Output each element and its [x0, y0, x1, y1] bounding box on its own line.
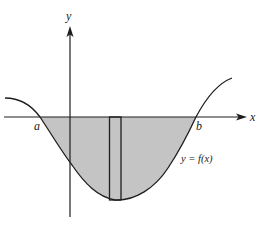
label-b: b: [196, 119, 202, 133]
rectangle-strip: [110, 117, 122, 200]
label-a: a: [34, 119, 40, 133]
y-axis-label: y: [65, 9, 72, 23]
diagram: y x a b y = f(x): [0, 0, 261, 225]
curve-label: y = f(x): [180, 153, 213, 165]
x-axis-label: x: [249, 110, 256, 124]
